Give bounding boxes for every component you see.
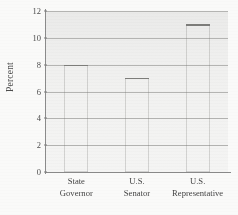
plot-area <box>46 11 228 172</box>
y-axis-title: Percent <box>5 45 15 109</box>
y-tick-mark <box>44 11 47 12</box>
x-tick-label-line2: Senator <box>107 188 168 200</box>
y-tick-mark <box>44 91 47 92</box>
gridline <box>46 11 228 12</box>
y-tick-label: 4 <box>22 114 41 123</box>
bar-chart-figure: Percent 024681012 StateGovernorU.S.Senat… <box>0 0 238 215</box>
y-tick-label: 2 <box>22 141 41 150</box>
y-tick-label: 12 <box>22 7 41 16</box>
x-tick-label-line1: U.S. <box>167 176 228 188</box>
y-tick-label: 10 <box>22 34 41 43</box>
bar <box>186 24 210 172</box>
x-tick-label-line2: Representative <box>167 188 228 200</box>
x-axis-tick-labels: StateGovernorU.S.SenatorU.S.Representati… <box>46 176 228 212</box>
x-tick-label: U.S.Senator <box>107 176 168 199</box>
y-tick-mark <box>44 118 47 119</box>
bar <box>125 78 149 172</box>
y-axis-tick-labels: 024681012 <box>22 11 41 172</box>
x-axis-line <box>45 172 231 173</box>
y-tick-label: 0 <box>22 168 41 177</box>
y-tick-mark <box>44 64 47 65</box>
y-tick-label: 8 <box>22 60 41 69</box>
x-tick-label: StateGovernor <box>46 176 107 199</box>
y-tick-mark <box>44 172 47 173</box>
y-tick-label: 6 <box>22 87 41 96</box>
y-tick-mark <box>44 37 47 38</box>
x-tick-label: U.S.Representative <box>167 176 228 199</box>
x-tick-label-line1: State <box>46 176 107 188</box>
bar <box>64 65 88 172</box>
x-tick-label-line1: U.S. <box>107 176 168 188</box>
x-tick-label-line2: Governor <box>46 188 107 200</box>
y-tick-mark <box>44 145 47 146</box>
